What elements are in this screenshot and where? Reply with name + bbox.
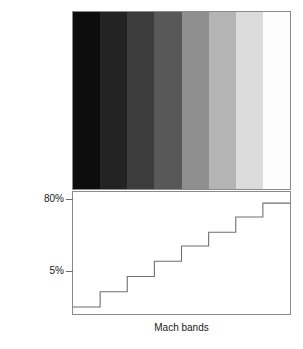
mach-bands-figure: 80% 5% Amount of light reflected from ea… [0, 0, 303, 349]
step-plot-svg [73, 192, 290, 314]
step-series-line [73, 203, 290, 307]
grayscale-strip [154, 12, 181, 189]
grayscale-strip [263, 12, 290, 189]
grayscale-strip [209, 12, 236, 189]
step-plot-panel [72, 191, 291, 315]
grayscale-strips-panel [72, 11, 291, 190]
y-tick-mark-low [66, 271, 73, 272]
grayscale-strip [100, 12, 127, 189]
y-tick-label-low: 5% [20, 265, 64, 276]
grayscale-strip [182, 12, 209, 189]
y-tick-label-top: 80% [20, 193, 64, 204]
grayscale-strip [236, 12, 263, 189]
x-axis-title: Mach bands [72, 322, 291, 334]
grayscale-strip [73, 12, 100, 189]
grayscale-strip [127, 12, 154, 189]
y-tick-mark-top [66, 199, 73, 200]
